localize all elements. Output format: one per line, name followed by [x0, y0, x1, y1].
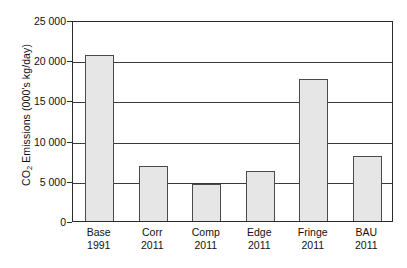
x-category-name: Edge — [233, 226, 287, 239]
x-category-name: Fringe — [286, 226, 340, 239]
x-category-label: Corr2011 — [126, 226, 180, 252]
x-category-year: 2011 — [126, 239, 180, 252]
x-category-year: 2011 — [179, 239, 233, 252]
y-tick-label: 10 000 — [22, 137, 66, 147]
y-tick-label: 15 000 — [22, 96, 66, 106]
x-category-label: BAU2011 — [340, 226, 394, 252]
y-tick-label: 20 000 — [22, 56, 66, 66]
x-category-name: Comp — [179, 226, 233, 239]
bar — [192, 184, 221, 221]
x-axis-category-labels: Base1991Corr2011Comp2011Edge2011Fringe20… — [72, 226, 393, 260]
x-category-year: 1991 — [72, 239, 126, 252]
x-category-year: 2011 — [233, 239, 287, 252]
x-category-label: Comp2011 — [179, 226, 233, 252]
x-category-label: Edge2011 — [233, 226, 287, 252]
bar — [353, 156, 382, 221]
x-category-label: Fringe2011 — [286, 226, 340, 252]
bar — [85, 55, 114, 221]
x-category-label: Base1991 — [72, 226, 126, 252]
bar — [139, 166, 168, 221]
x-category-year: 2011 — [286, 239, 340, 252]
y-tick-label: 25 000 — [22, 16, 66, 26]
x-category-name: Base — [72, 226, 126, 239]
bar-chart-figure: CO2 Emissions (000's kg/day) 05 00010 00… — [0, 0, 407, 268]
plot-area — [72, 21, 393, 222]
y-tick-label: 5 000 — [22, 177, 66, 187]
x-category-year: 2011 — [340, 239, 394, 252]
x-category-name: BAU — [340, 226, 394, 239]
y-axis-tick-labels: 05 00010 00015 00020 00025 000 — [22, 0, 66, 268]
y-tick-mark — [67, 222, 72, 223]
y-tick-label: 0 — [22, 217, 66, 227]
bar — [299, 79, 328, 221]
bar-series — [73, 22, 392, 221]
x-category-name: Corr — [126, 226, 180, 239]
bar — [246, 171, 275, 221]
